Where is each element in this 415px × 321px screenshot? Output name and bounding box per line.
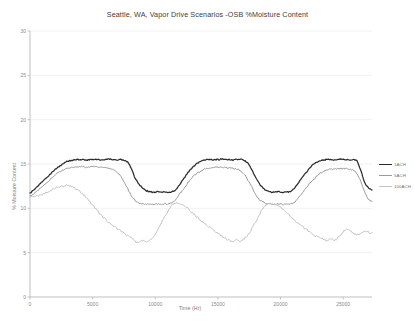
legend-label: 100ACH xyxy=(394,184,411,189)
y-tick-label: 15 xyxy=(10,161,26,167)
x-tick-label: 15000 xyxy=(203,301,233,307)
legend-label: 5ACH xyxy=(394,173,406,178)
legend-swatch-100ach xyxy=(379,186,392,187)
legend-swatch-1ach xyxy=(379,164,392,165)
legend-swatch-5ach xyxy=(379,175,392,176)
x-tick-label: 0 xyxy=(15,301,45,307)
y-tick-label: 25 xyxy=(10,72,26,78)
series-line-100ach xyxy=(30,185,372,243)
y-tick-label: 10 xyxy=(10,205,26,211)
plot-area xyxy=(0,0,415,321)
y-tick-label: 20 xyxy=(10,117,26,123)
y-axis-label: % Moisture Content xyxy=(11,163,17,210)
chart-container: Seattle, WA, Vapor Drive Scenarios -OSB … xyxy=(0,0,415,321)
x-tick-label: 5000 xyxy=(78,301,108,307)
legend-item-5ach[interactable]: 5ACH xyxy=(379,170,415,181)
x-tick-label: 20000 xyxy=(266,301,296,307)
legend-item-1ach[interactable]: 1ACH xyxy=(379,159,415,170)
chart-legend: 1ACH5ACH100ACH xyxy=(379,159,415,192)
legend-label: 1ACH xyxy=(394,162,406,167)
x-axis-label: Time (Hr) xyxy=(0,305,380,311)
x-tick-label: 25000 xyxy=(328,301,358,307)
x-tick-label: 10000 xyxy=(140,301,170,307)
y-tick-label: 5 xyxy=(10,250,26,256)
series-line-5ach xyxy=(30,166,372,205)
y-tick-label: 30 xyxy=(10,28,26,34)
legend-item-100ach[interactable]: 100ACH xyxy=(379,181,415,192)
y-tick-label: 0 xyxy=(10,294,26,300)
